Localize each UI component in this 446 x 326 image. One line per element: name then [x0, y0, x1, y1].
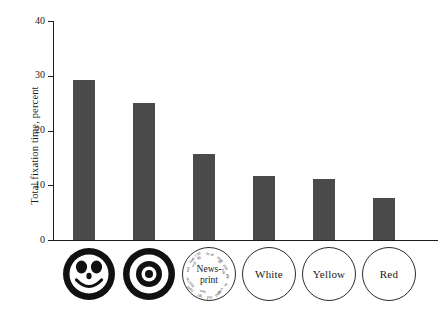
svg-text:est: est — [185, 266, 191, 272]
svg-text:dol: dol — [206, 295, 213, 300]
y-tick-0: 0 — [48, 240, 53, 241]
y-tick-label-40: 40 — [35, 14, 45, 28]
category-label-red: Red — [362, 247, 418, 303]
bar-white — [253, 176, 275, 240]
category-label-white: White — [242, 247, 298, 303]
svg-text:dic: dic — [225, 274, 230, 279]
plain-circle-icon-yellow: Yellow — [302, 247, 356, 301]
y-tick-label-30: 30 — [35, 68, 45, 82]
category-label-bullseye — [122, 247, 178, 303]
y-tick-10: 10 — [48, 185, 53, 186]
y-tick-label-0: 0 — [40, 233, 45, 247]
category-text-yellow: Yellow — [313, 268, 345, 280]
svg-text:ver: ver — [184, 276, 191, 283]
plot-area: 0 10 20 30 40 — [53, 21, 438, 240]
category-label-newsprint: con lo re sum tion pro est dic ver lit n… — [182, 247, 238, 303]
y-axis-line — [53, 21, 54, 240]
smiley-face-icon — [62, 247, 118, 301]
y-tick-label-20: 20 — [35, 123, 45, 137]
svg-text:lo re: lo re — [206, 251, 214, 257]
y-tick-40: 40 — [48, 21, 53, 22]
y-tick-20: 20 — [48, 131, 53, 132]
fixation-time-bar-chart: Total fixation time, percent 0 10 20 30 … — [0, 0, 446, 326]
bar-yellow — [313, 179, 335, 240]
bar-newsprint — [193, 154, 215, 240]
bullseye-icon — [122, 247, 178, 301]
bar-bullseye — [133, 103, 155, 240]
svg-text:lit: lit — [223, 282, 229, 288]
y-tick-30: 30 — [48, 76, 53, 77]
plain-circle-icon-red: Red — [362, 247, 416, 301]
svg-text:ab: ab — [196, 254, 201, 260]
category-label-yellow: Yellow — [302, 247, 358, 303]
y-tick-label-10: 10 — [35, 178, 45, 192]
category-text-red: Red — [380, 268, 398, 280]
y-axis-title: Total fixation time, percent — [29, 61, 40, 231]
bar-red — [373, 198, 395, 240]
category-label-face — [62, 247, 118, 303]
plain-circle-icon-white: White — [242, 247, 296, 301]
category-text-white: White — [255, 268, 283, 280]
x-axis-line — [53, 240, 438, 241]
newsprint-icon: con lo re sum tion pro est dic ver lit n… — [182, 247, 236, 301]
svg-text:iam: iam — [198, 289, 206, 296]
bar-face — [73, 80, 95, 240]
